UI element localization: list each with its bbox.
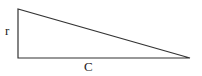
- triangle-diagram: r C: [0, 0, 202, 76]
- vertical-side-label: r: [5, 24, 9, 37]
- right-triangle-shape: [0, 0, 202, 76]
- base-label: C: [84, 60, 93, 73]
